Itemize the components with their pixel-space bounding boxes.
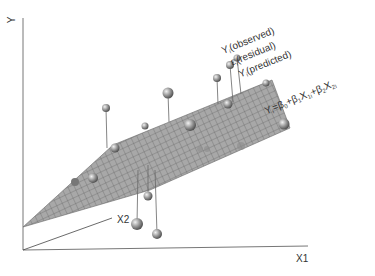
data-point <box>197 146 203 152</box>
data-point <box>263 80 270 87</box>
regression-plane <box>23 80 290 227</box>
data-point <box>142 123 149 130</box>
data-point <box>88 173 98 183</box>
x1-axis <box>23 246 308 250</box>
data-point <box>224 100 233 109</box>
data-point <box>279 119 290 130</box>
x1-axis-label: X1 <box>296 253 309 264</box>
data-point <box>213 74 221 82</box>
y-axis-label: Y <box>6 16 17 23</box>
data-point <box>131 218 143 230</box>
data-point <box>184 119 196 131</box>
regression-diagram: Y X1 X2 Yi(observed) εi(residual) Yi(pre… <box>0 0 375 276</box>
data-point <box>111 144 120 153</box>
data-point <box>102 104 110 112</box>
data-point <box>144 192 153 201</box>
data-point <box>204 146 210 152</box>
data-point <box>71 178 79 186</box>
data-point <box>163 88 174 99</box>
data-point <box>237 142 245 150</box>
x2-axis-label: X2 <box>117 214 130 225</box>
data-point <box>152 229 162 239</box>
